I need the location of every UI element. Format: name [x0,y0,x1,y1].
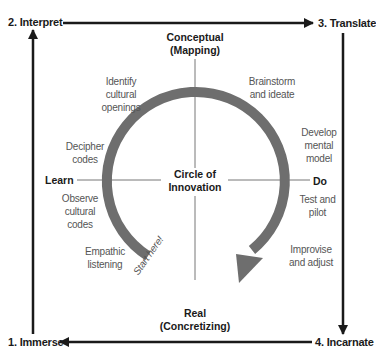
stage-interpret: 2. Interpret [8,16,62,29]
step-text: Empathic [72,245,138,258]
stage-incarnate: 4. Incarnate [315,336,374,349]
axis-real-line2: (Concretizing) [145,320,245,333]
step-text: cultural [88,88,154,101]
center-title-line2: Innovation [150,181,240,194]
stage-translate: 3. Translate [318,17,376,30]
arc-arrowhead-icon [236,254,263,283]
step-brainstorm-and-ideate: Brainstorm and ideate [237,75,307,101]
step-text: Develop [289,126,349,139]
stage-immerse: 1. Immerse [8,336,63,349]
step-text: Brainstorm [237,75,307,88]
step-improvise-and-adjust: Improvise and adjust [276,243,346,269]
step-text: cultural [50,205,110,218]
step-observe-cultural-codes: Observe cultural codes [50,192,110,231]
step-text: and ideate [237,88,307,101]
step-text: codes [50,218,110,231]
step-text: Observe [50,192,110,205]
step-develop-mental-model: Develop mental model [289,126,349,165]
step-text: codes [55,153,115,166]
step-text: Identify [88,75,154,88]
step-empathic-listening: Empathic listening [72,245,138,271]
step-text: Test and [290,193,345,206]
axis-real-line1: Real [145,307,245,320]
center-title-line1: Circle of [150,168,240,181]
axis-label-conceptual: Conceptual (Mapping) [150,31,240,57]
step-text: listening [72,258,138,271]
step-text: pilot [290,206,345,219]
step-test-and-pilot: Test and pilot [290,193,345,219]
step-text: Decipher [55,140,115,153]
axis-label-do: Do [313,175,327,188]
axis-label-real: Real (Concretizing) [145,307,245,333]
axis-conceptual-line2: (Mapping) [150,44,240,57]
step-text: openings [88,101,154,114]
step-text: and adjust [276,256,346,269]
axis-label-learn: Learn [45,174,74,187]
step-text: mental [289,139,349,152]
step-decipher-codes: Decipher codes [55,140,115,166]
axis-conceptual-line1: Conceptual [150,31,240,44]
step-identify-cultural-openings: Identify cultural openings [88,75,154,114]
step-text: model [289,152,349,165]
step-text: Improvise [276,243,346,256]
center-title: Circle of Innovation [150,168,240,194]
